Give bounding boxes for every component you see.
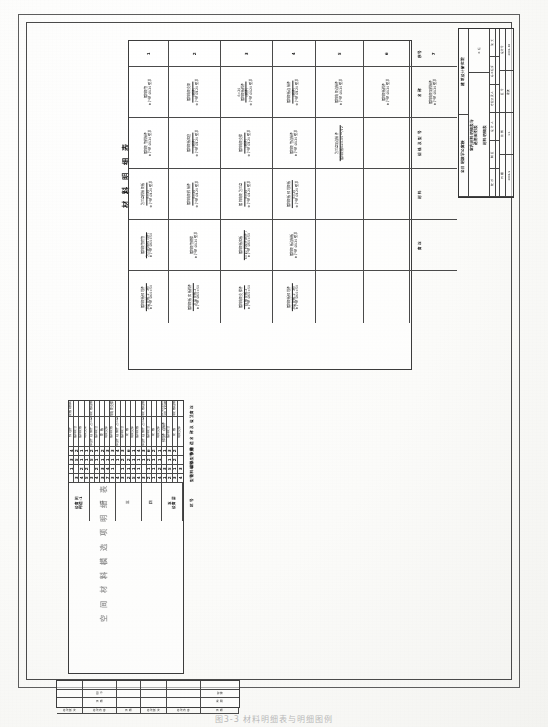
selection-cell-text: 1 <box>131 449 136 452</box>
material-table-cell: 镀锌钢板焊件Φ 外径 Ø120 壁厚 <box>364 67 410 118</box>
selection-zone-text: 二 <box>100 500 104 504</box>
selection-cell-text: 镀锌钢管 <box>168 425 172 437</box>
selection-cell-text: 2 <box>95 467 100 470</box>
selection-cell-text: 6 <box>147 449 152 452</box>
selection-zone-text: 三 <box>126 500 130 504</box>
selection-zone-text: 五设备层 <box>168 496 177 508</box>
title-block-spec-value: 1:1 <box>506 113 513 155</box>
selection-cell-text: 1 <box>131 467 136 470</box>
material-cell-text: 镀锌钢管连接件Φ 外径 Ø120 壁厚 <box>290 130 298 157</box>
selection-zone-cell: 四 <box>142 483 163 521</box>
selection-col-header-text: 构 造 名 称 及 做 法 <box>190 414 194 451</box>
selection-cell-text: 钢 板 <box>126 428 130 435</box>
selection-table-cell <box>178 456 183 465</box>
material-table-title: 材 料 明 细 表 <box>92 170 132 250</box>
revision-cell-text: 建施 <box>201 690 239 699</box>
revision-cell <box>57 698 83 707</box>
material-table-cell <box>316 220 364 271</box>
selection-cell-text: 2 <box>126 476 131 479</box>
revision-cell: 图 号 <box>83 690 117 699</box>
selection-cell-text: 钢 板 <box>152 428 156 435</box>
revision-cell <box>83 681 117 690</box>
selection-cell-text: 5 <box>90 458 95 461</box>
title-block-project: 全日制教学公寓楼 <box>459 115 468 197</box>
material-table-cell <box>364 220 410 271</box>
selection-cell-text: 4 <box>116 449 121 452</box>
selection-cell-text: 2 <box>121 458 126 461</box>
selection-cell-text: 2 <box>90 449 95 452</box>
selection-table-title: 空 间 材 料 模 选 项 明 细 表 <box>34 548 68 638</box>
selection-cell-text: 3 <box>90 476 95 479</box>
material-table-cell: 镀锌钢板预埋件厚度 钢板-2（附）Φ 外径 Ø60×50 <box>273 271 316 323</box>
selection-cell-text: 4 <box>69 449 74 452</box>
selection-cell-text: 6 <box>126 449 131 452</box>
material-row-number: 7 <box>431 52 436 55</box>
selection-cell-text: 3 <box>121 476 126 479</box>
material-cell-text: 镀锌角钢支架(附件)Φ 外径 Ø120 壁厚 <box>188 79 200 106</box>
material-row-number: 5 <box>337 52 342 55</box>
material-col-header-text: 序号 <box>418 50 422 58</box>
selection-cell-text: 1 <box>79 449 84 452</box>
material-cell-text: 镀锌钢管Φ 外径 Ø120 壁厚 <box>145 79 153 106</box>
selection-cell-text: 2 <box>152 449 157 452</box>
selection-cell-text: 1 <box>85 449 90 452</box>
selection-zone-text: 四 <box>149 500 153 504</box>
selection-cell-text: 3 <box>110 476 115 479</box>
role-label-text: 总工程师 <box>491 64 494 76</box>
selection-cell-text: 1 <box>95 458 100 461</box>
spec-label-text: 设计号 <box>501 45 504 54</box>
selection-cell-text: 镀锌钢板 <box>80 425 84 437</box>
revision-cell <box>201 681 239 690</box>
selection-cell-text: 3 <box>142 476 147 479</box>
selection-cell-text: 2 <box>147 458 152 461</box>
material-col-header: 材 料 <box>412 169 428 220</box>
selection-cell-text: 1 <box>110 458 115 461</box>
selection-cell-text: 角钢支撑 <box>157 425 161 437</box>
selection-cell-text: 2 <box>167 476 172 479</box>
material-table-cell: 镀锌钢板预埋件厚度 钢板-2（附）Φ 外径 Ø60×50 <box>129 271 169 323</box>
selection-cell-text: 1 <box>136 467 141 470</box>
selection-cell-text: 钢 板 <box>173 428 177 435</box>
material-table-cell: 镀锌钢板底座(附件)Φ 外径 Ø120 壁厚 <box>169 118 221 169</box>
selection-cell-text: 镀锌钢管 <box>147 425 151 437</box>
spec-label-text: 比 例 <box>501 130 504 137</box>
material-cell-text: 镀锌钢板预埋件厚度 钢板-2（附）Φ 外径 Ø60×50 <box>288 283 300 311</box>
material-table-cell: 镀锌钢板底板δ=10 焊缝件(附件)Φ 外径 Ø60×50 <box>221 220 273 271</box>
selection-cell-text: 角钢支架 <box>85 425 89 437</box>
project-text: 全日制教学公寓楼 <box>461 140 465 173</box>
selection-cell-text: 角钢支撑 <box>178 425 182 437</box>
title-block-drawing-name-group: 工 程室内材料明细表与选用图例表材料明细表 <box>469 29 490 197</box>
selection-zone-cell: 五设备层 <box>162 483 183 521</box>
material-table-cell: 镀锌角钢连接件Φ 外径 Ø120 壁厚 <box>316 67 364 118</box>
material-cell-text: 镀锌钢板底座(附件)Φ 外径 Ø120 壁厚 <box>188 130 200 157</box>
selection-cell-text: 1 <box>157 458 162 461</box>
selection-table-cell <box>178 401 183 417</box>
revision-cell <box>117 698 141 707</box>
selection-cell-text: 角钢支撑 <box>131 425 135 437</box>
selection-cell-text: 镀锌钢板连接件 <box>142 401 146 417</box>
material-table-cell: δ=20镀锌钢板焊件(附件)Φ 外径 Ø120 壁厚 <box>221 67 273 118</box>
material-table-cell: 镀锌角钢支架(附件)Φ 外径 Ø120 壁厚 <box>169 67 221 118</box>
revision-cell <box>167 698 201 707</box>
role-label-text: 设 计 人 <box>491 121 494 132</box>
material-col-header: 名 称 <box>412 67 428 118</box>
material-table-cell <box>364 169 410 220</box>
revision-cell <box>117 681 141 690</box>
selection-cell-text: 1 <box>167 458 172 461</box>
selection-cell-text: 预埋件 <box>69 427 73 436</box>
selection-cell-text: 1 <box>157 449 162 452</box>
selection-cell-text: 2 <box>157 467 162 470</box>
revision-cell <box>57 681 83 690</box>
title-block-drawing-name: 室内材料明细表与选用图例表材料明细表 <box>469 73 490 197</box>
material-table-cell: 镀锌钢板 预埋钢板δ=20Φ 外径 Ø120 壁厚 <box>273 169 316 220</box>
revision-cell: 说 明 <box>201 698 239 707</box>
material-table-rownum-cell: 2 <box>169 41 221 67</box>
selection-cell-text: 4 <box>79 476 84 479</box>
drawing-name-text: 室内材料明细表与选用图例表材料明细表 <box>471 119 489 152</box>
spec-value-text: 1:1 <box>508 131 511 135</box>
revision-cell <box>57 690 83 699</box>
spec-value-text: 2002-08 <box>508 44 511 56</box>
selection-table-cell <box>178 447 183 456</box>
selection-col-header: 型号 <box>184 474 200 483</box>
selection-cell-text: 3 <box>100 467 105 470</box>
